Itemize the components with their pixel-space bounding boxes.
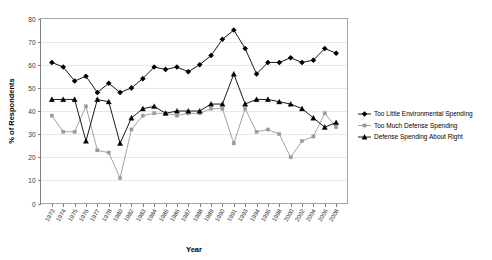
series-line	[52, 30, 336, 92]
data-point-square	[232, 142, 235, 145]
data-point-diamond	[243, 47, 247, 51]
legend: Too Little Environmental SpendingToo Muc…	[358, 110, 473, 141]
data-point-square	[363, 124, 366, 127]
series-line	[52, 74, 336, 143]
y-tick-label: 0	[32, 201, 36, 208]
data-point-diamond	[164, 67, 168, 71]
y-axis-title: % of Respondents	[7, 78, 16, 143]
data-point-square	[130, 128, 133, 131]
data-point-diamond	[50, 60, 54, 64]
series-line	[52, 106, 336, 178]
y-axis-ticks-group: 01020304050607080	[28, 16, 40, 208]
data-point-square	[73, 130, 76, 133]
data-point-square	[118, 176, 121, 179]
x-tick-label: 2008	[328, 207, 340, 222]
data-point-diamond	[289, 56, 293, 60]
data-point-square	[84, 105, 87, 108]
data-point-square	[266, 128, 269, 131]
data-point-triangle	[152, 104, 157, 109]
data-point-diamond	[363, 112, 367, 116]
x-tick-label: 1993	[237, 207, 249, 222]
y-tick-label: 70	[28, 39, 36, 46]
line-chart: 01020304050607080 1973197419751976197719…	[0, 0, 492, 260]
data-point-triangle	[95, 97, 100, 102]
x-axis-title: Year	[186, 245, 202, 254]
data-point-square	[312, 135, 315, 138]
legend-item-label: Defense Spending About Right	[374, 133, 463, 141]
data-point-square	[323, 112, 326, 115]
x-tick-label: 1984	[146, 207, 158, 222]
data-point-diamond	[186, 70, 190, 74]
data-point-square	[289, 156, 292, 159]
x-tick-label: 1987	[180, 207, 192, 222]
x-tick-label: 2004	[305, 207, 317, 222]
legend-item[interactable]: Defense Spending About Right	[358, 133, 463, 141]
series-square	[50, 105, 337, 180]
data-point-triangle	[243, 101, 248, 106]
y-tick-label: 50	[28, 85, 36, 92]
data-point-triangle	[334, 120, 339, 125]
data-point-square	[107, 151, 110, 154]
y-tick-label: 30	[28, 131, 36, 138]
legend-item-label: Too Little Environmental Spending	[374, 110, 473, 118]
y-tick-label: 10	[28, 177, 36, 184]
x-tick-label: 1974	[55, 207, 67, 222]
data-point-square	[96, 149, 99, 152]
data-point-square	[244, 107, 247, 110]
x-tick-label: 1990	[214, 207, 226, 222]
data-point-square	[221, 107, 224, 110]
data-point-triangle	[299, 106, 304, 111]
series-group	[49, 28, 338, 180]
data-point-diamond	[300, 60, 304, 64]
data-point-square	[278, 133, 281, 136]
x-axis-ticks-group: 1973197419751976197719781980198219831984…	[44, 204, 340, 223]
data-point-square	[153, 112, 156, 115]
data-point-triangle	[83, 138, 88, 143]
data-point-diamond	[334, 51, 338, 55]
y-tick-label: 40	[28, 108, 36, 115]
data-point-square	[50, 114, 53, 117]
data-point-triangle	[231, 71, 236, 76]
data-point-triangle	[117, 141, 122, 146]
x-tick-label: 1982	[123, 207, 135, 222]
x-tick-label: 1977	[89, 207, 101, 222]
y-tick-label: 80	[28, 16, 36, 23]
series-diamond	[50, 28, 338, 94]
y-tick-label: 20	[28, 154, 36, 161]
data-point-square	[335, 126, 338, 129]
data-point-diamond	[277, 60, 281, 64]
data-point-square	[175, 114, 178, 117]
y-tick-label: 60	[28, 62, 36, 69]
data-point-square	[141, 114, 144, 117]
data-point-square	[209, 107, 212, 110]
legend-item[interactable]: Too Much Defense Spending	[358, 122, 458, 130]
data-point-square	[300, 139, 303, 142]
x-tick-label: 1998	[271, 207, 283, 222]
legend-item-label: Too Much Defense Spending	[374, 122, 458, 130]
chart-container: 01020304050607080 1973197419751976197719…	[0, 0, 492, 260]
legend-item[interactable]: Too Little Environmental Spending	[358, 110, 473, 118]
data-point-square	[62, 130, 65, 133]
data-point-square	[255, 130, 258, 133]
